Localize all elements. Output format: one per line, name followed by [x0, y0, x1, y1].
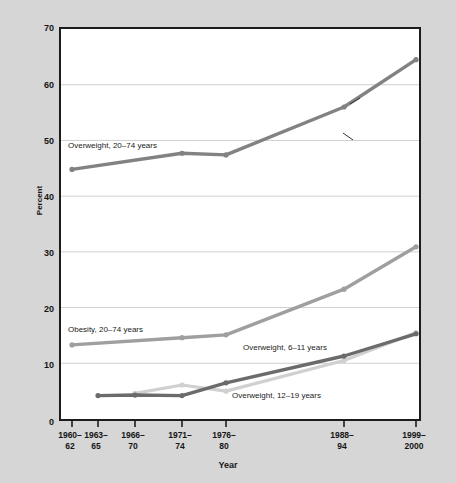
chart-figure: Percent 0 10 20 30 40 50 60 70 1960– 62 …	[0, 0, 456, 483]
y-tick-label-40: 40	[20, 192, 54, 202]
data-point	[223, 389, 228, 394]
data-point	[69, 167, 74, 172]
data-point	[179, 151, 184, 156]
data-point	[413, 57, 418, 62]
data-point	[223, 152, 228, 157]
y-tick-label-70: 70	[20, 23, 54, 33]
y-tick-label-30: 30	[20, 248, 54, 258]
data-point	[223, 380, 228, 385]
data-point	[223, 332, 228, 337]
y-tick-label-60: 60	[20, 80, 54, 90]
data-point	[132, 392, 137, 397]
data-point	[179, 393, 184, 398]
chart-canvas	[61, 29, 419, 419]
x-tick-line1: 1988–	[314, 430, 370, 441]
x-tick-label-4: 1976– 80	[196, 430, 252, 452]
gridlines	[61, 85, 419, 364]
data-point	[179, 335, 184, 340]
x-tick-line2: 80	[196, 441, 252, 452]
y-tick-label-20: 20	[20, 304, 54, 314]
y-tick-label-10: 10	[20, 360, 54, 370]
series-annotation-overweight-12-19: Overweight, 12–19 years	[232, 391, 321, 400]
data-point	[341, 104, 346, 109]
y-tick-label-50: 50	[20, 136, 54, 146]
plot-area	[59, 27, 421, 421]
data-point	[341, 353, 346, 358]
data-point	[69, 342, 74, 347]
leader-line-overweight-12-19	[343, 133, 353, 140]
data-point	[413, 244, 418, 249]
data-point	[341, 287, 346, 292]
data-point	[341, 358, 346, 363]
x-tick-label-5: 1988– 94	[314, 430, 370, 452]
data-point	[179, 382, 184, 387]
series-annotation-overweight-6-11: Overweight, 6–11 years	[243, 343, 327, 352]
x-axis-title: Year	[0, 460, 456, 470]
data-point	[95, 393, 100, 398]
x-tick-line2: 94	[314, 441, 370, 452]
x-tick-line1: 1999–	[386, 430, 442, 441]
series-line-0	[72, 60, 416, 170]
x-tick-label-6: 1999– 2000	[386, 430, 442, 452]
x-tick-line1: 1976–	[196, 430, 252, 441]
data-point	[413, 331, 418, 336]
series-annotation-overweight-20-74: Overweight, 20–74 years	[68, 141, 157, 150]
x-axis-ticks	[59, 421, 421, 428]
series-annotation-obesity-20-74: Obesity, 20–74 years	[68, 325, 143, 334]
x-tick-line2: 2000	[386, 441, 442, 452]
y-tick-label-0: 0	[20, 417, 54, 427]
